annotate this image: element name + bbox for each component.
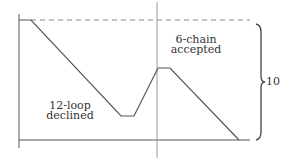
diagram-canvas bbox=[0, 0, 292, 158]
brace-value-label: 10 bbox=[266, 77, 280, 87]
label-6-chain-accepted: 6-chain accepted bbox=[166, 35, 226, 55]
label-line: accepted bbox=[166, 45, 226, 55]
label-12-loop-declined: 12-loop declined bbox=[40, 101, 100, 121]
brace bbox=[256, 24, 265, 140]
label-line: declined bbox=[40, 111, 100, 121]
